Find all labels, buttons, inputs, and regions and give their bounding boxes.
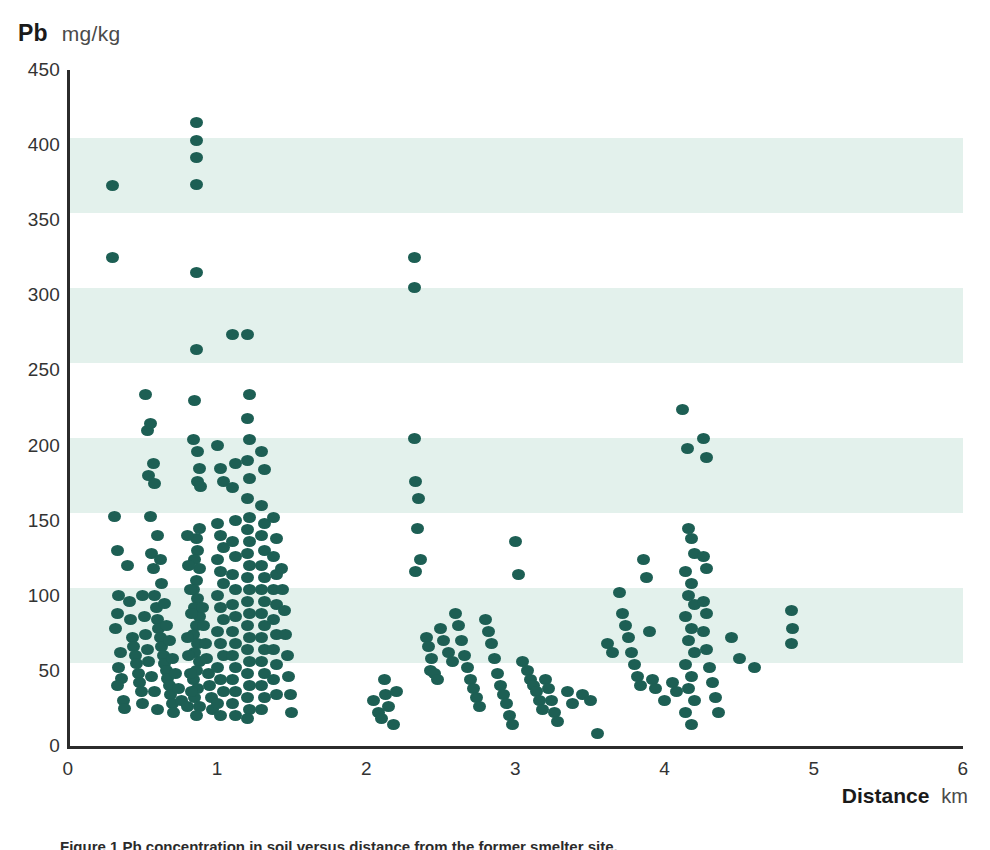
y-axis-tick-label: 300 [2, 284, 60, 306]
y-axis-line [67, 70, 70, 748]
data-point [241, 692, 254, 703]
data-point [255, 680, 268, 691]
data-point [536, 704, 549, 715]
data-point [267, 674, 280, 685]
y-axis-tick-label: 150 [2, 510, 60, 532]
data-point [378, 674, 391, 685]
data-point [167, 707, 180, 718]
data-point [211, 518, 224, 529]
data-point [241, 668, 254, 679]
x-axis-tick-label: 2 [346, 758, 386, 780]
data-point [387, 719, 400, 730]
data-point [226, 599, 239, 610]
data-point [226, 536, 239, 547]
data-point [408, 282, 421, 293]
data-point [190, 179, 203, 190]
data-point [243, 512, 256, 523]
data-point [190, 135, 203, 146]
data-point [188, 395, 201, 406]
data-point [229, 611, 242, 622]
data-point [491, 668, 504, 679]
y-axis-tick-labels: 050100150200250300350400450 [0, 70, 60, 746]
y-axis-tick-label: 350 [2, 209, 60, 231]
data-point [500, 698, 513, 709]
data-point [229, 584, 242, 595]
data-point [700, 452, 713, 463]
data-point [255, 560, 268, 571]
data-point [542, 683, 555, 694]
data-point [461, 662, 474, 673]
data-point [187, 434, 200, 445]
data-point [637, 554, 650, 565]
data-point [229, 515, 242, 526]
data-point [545, 695, 558, 706]
x-axis-variable-label: Distance [842, 784, 930, 807]
data-point [190, 152, 203, 163]
data-point [270, 689, 283, 700]
data-point [139, 389, 152, 400]
data-point [640, 572, 653, 583]
data-point [509, 536, 522, 547]
y-axis-tick-label: 250 [2, 359, 60, 381]
data-point [267, 551, 280, 562]
data-point [141, 644, 154, 655]
data-point [226, 650, 239, 661]
data-point [144, 418, 157, 429]
data-point [241, 413, 254, 424]
data-point [712, 707, 725, 718]
data-point [679, 707, 692, 718]
data-point [217, 686, 230, 697]
x-axis-tick-label: 1 [197, 758, 237, 780]
data-point [214, 710, 227, 721]
data-point [214, 674, 227, 685]
x-axis-tick-label: 4 [645, 758, 685, 780]
data-point [211, 554, 224, 565]
data-point [676, 404, 689, 415]
data-point [255, 704, 268, 715]
data-point [551, 716, 564, 727]
data-point [685, 719, 698, 730]
data-point [408, 433, 421, 444]
data-point [229, 551, 242, 562]
data-point [512, 569, 525, 580]
data-point [229, 686, 242, 697]
data-point [679, 659, 692, 670]
data-point [169, 668, 182, 679]
data-point [214, 638, 227, 649]
data-point [214, 463, 227, 474]
data-point [121, 560, 134, 571]
data-point [172, 683, 185, 694]
data-point [135, 686, 148, 697]
data-point [226, 482, 239, 493]
y-axis-tick-label: 100 [2, 585, 60, 607]
y-axis-unit-label: mg/kg [62, 22, 121, 45]
data-point [214, 530, 227, 541]
data-point [706, 677, 719, 688]
data-point [412, 493, 425, 504]
y-axis-tick-label: 450 [2, 59, 60, 81]
y-axis-variable-label: Pb [18, 20, 48, 46]
data-point [681, 443, 694, 454]
data-point [241, 596, 254, 607]
data-point [566, 698, 579, 709]
data-point [123, 596, 136, 607]
data-point [685, 671, 698, 682]
data-point [255, 530, 268, 541]
data-point [147, 458, 160, 469]
pb-distance-scatter-chart: Pbmg/kg 050100150200250300350400450 0123… [0, 0, 990, 850]
data-point [194, 481, 207, 492]
data-point [211, 590, 224, 601]
data-point [267, 512, 280, 523]
data-point [154, 554, 167, 565]
data-point [685, 533, 698, 544]
data-point [275, 563, 288, 574]
data-point [106, 252, 119, 263]
data-point [241, 329, 254, 340]
data-point [211, 440, 224, 451]
data-point [591, 728, 604, 739]
data-point [111, 680, 124, 691]
x-axis-tick-labels: 0123456 [68, 758, 963, 786]
data-point [697, 551, 710, 562]
data-point [243, 536, 256, 547]
data-point [148, 478, 161, 489]
